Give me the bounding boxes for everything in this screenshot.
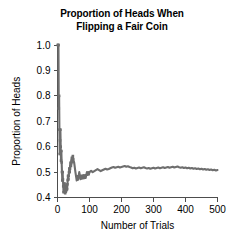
series-point [60, 161, 63, 164]
series-point [61, 171, 64, 174]
series-point [59, 145, 62, 148]
series-point [59, 139, 62, 142]
series-point [62, 178, 65, 181]
x-tick-label: 300 [145, 204, 162, 215]
x-tick-label: 400 [177, 204, 194, 215]
series-point [57, 44, 60, 47]
y-tick-label: 0.6 [37, 141, 51, 152]
x-tick-label: 500 [209, 204, 226, 215]
x-tick-label: 100 [81, 204, 98, 215]
x-tick-label: 200 [113, 204, 130, 215]
series-line [58, 45, 218, 193]
series-point [66, 183, 69, 186]
series-point [58, 95, 61, 98]
plot-area: 0.40.50.60.70.80.91.0 0100200300400500 N… [0, 0, 244, 243]
x-axis: 0100200300400500 [55, 198, 227, 215]
series-point [69, 167, 72, 170]
data-series [57, 44, 218, 195]
y-tick-label: 1.0 [37, 40, 51, 51]
x-axis-title: Number of Trials [101, 220, 174, 231]
series-point [72, 155, 75, 158]
y-tick-label: 0.9 [37, 65, 51, 76]
series-point [60, 150, 63, 153]
series-point [72, 161, 75, 164]
series-point [67, 178, 70, 181]
series-point [63, 182, 66, 185]
y-tick-label: 0.5 [37, 167, 51, 178]
series-point [58, 153, 61, 156]
y-tick-label: 0.7 [37, 116, 51, 127]
y-axis-title: Proportion of Heads [11, 77, 22, 166]
series-point [59, 128, 62, 131]
series-point [70, 165, 73, 168]
y-axis: 0.40.50.60.70.80.91.0 [37, 40, 58, 204]
series-point [66, 188, 69, 191]
chart-figure: Proportion of Heads When Flipping a Fair… [0, 0, 244, 243]
y-tick-label: 0.8 [37, 90, 51, 101]
series-point [57, 107, 60, 110]
series-point [67, 174, 70, 177]
y-tick-label: 0.4 [37, 192, 51, 203]
x-tick-label: 0 [55, 204, 61, 215]
series-point [72, 158, 75, 161]
series-point [68, 171, 71, 174]
